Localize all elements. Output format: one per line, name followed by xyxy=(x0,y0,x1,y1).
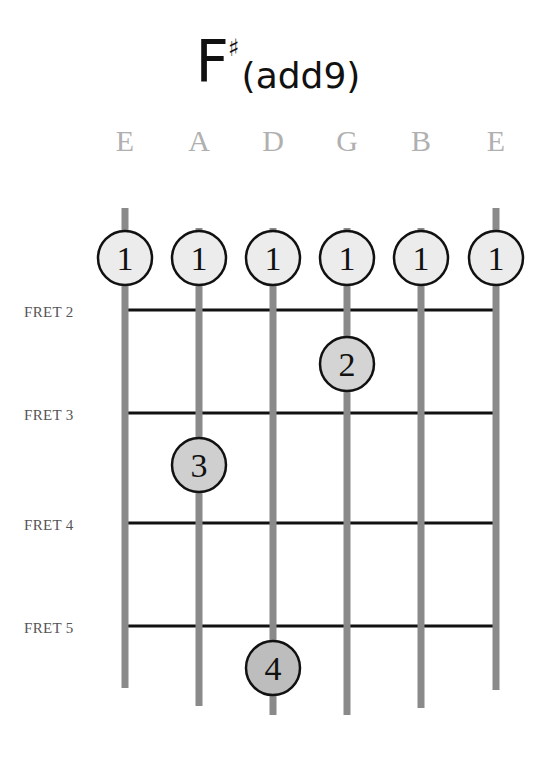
finger-number: 1 xyxy=(413,240,430,277)
finger-number: 1 xyxy=(339,240,356,277)
finger-number: 1 xyxy=(117,240,134,277)
chord-fretboard: 111111234 xyxy=(0,0,556,763)
finger-marker-5: 1 xyxy=(469,231,523,285)
finger-marker-1: 1 xyxy=(172,231,226,285)
finger-marker-4: 1 xyxy=(394,231,448,285)
finger-marker-3: 1 xyxy=(320,231,374,285)
finger-number: 2 xyxy=(339,346,356,383)
finger-number: 3 xyxy=(191,447,208,484)
finger-marker-6: 2 xyxy=(320,337,374,391)
finger-marker-8: 4 xyxy=(246,641,300,695)
finger-number: 1 xyxy=(191,240,208,277)
finger-number: 1 xyxy=(488,240,505,277)
finger-marker-7: 3 xyxy=(172,438,226,492)
finger-number: 1 xyxy=(265,240,282,277)
finger-marker-0: 1 xyxy=(98,231,152,285)
finger-number: 4 xyxy=(265,650,282,687)
finger-marker-2: 1 xyxy=(246,231,300,285)
